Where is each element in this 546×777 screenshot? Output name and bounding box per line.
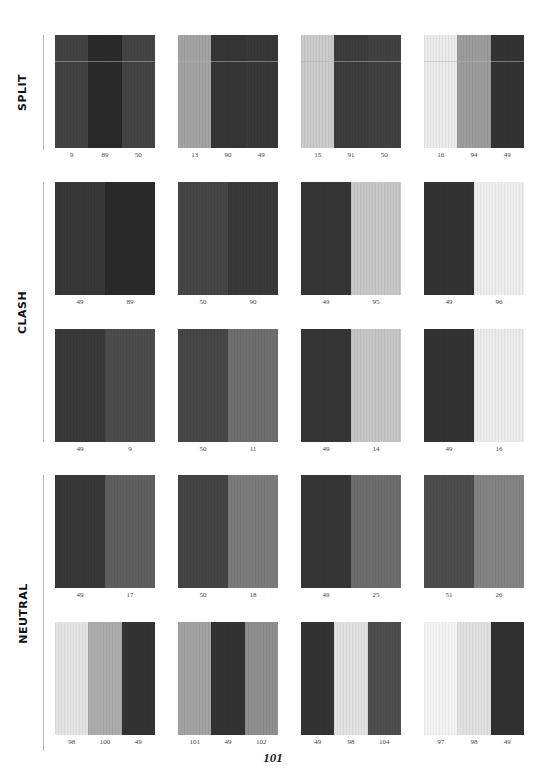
color-stripe — [301, 35, 334, 148]
color-stripe — [245, 622, 278, 735]
swatch-code-label: 98 — [334, 738, 367, 746]
color-swatch — [424, 622, 524, 735]
swatch-card: 499 — [55, 329, 155, 453]
color-swatch — [178, 475, 278, 588]
color-stripe — [178, 329, 228, 442]
color-swatch — [55, 329, 155, 442]
swatch-code-label: 49 — [491, 151, 524, 159]
swatch-code-label: 49 — [491, 738, 524, 746]
color-stripe — [301, 329, 351, 442]
swatch-codes: 4995 — [301, 298, 401, 306]
swatch-code-label: 95 — [351, 298, 401, 306]
swatch-codes: 10149102 — [178, 738, 278, 746]
swatch-codes: 169449 — [424, 151, 524, 159]
section-label-clash: CLASH — [8, 182, 38, 442]
section-label-split: SPLIT — [8, 35, 38, 150]
swatch-code-label: 9 — [105, 445, 155, 453]
color-stripe — [457, 622, 490, 735]
color-swatch — [424, 182, 524, 295]
swatch-code-label: 18 — [228, 591, 278, 599]
swatch-code-label: 98 — [457, 738, 490, 746]
swatch-codes: 5090 — [178, 298, 278, 306]
swatch-code-label: 16 — [424, 151, 457, 159]
swatch-code-label: 50 — [178, 445, 228, 453]
swatch-code-label: 94 — [457, 151, 490, 159]
swatch-card: 159150 — [301, 35, 401, 159]
swatch-card: 98950 — [55, 35, 155, 159]
color-stripe — [474, 475, 524, 588]
color-stripe — [211, 622, 244, 735]
swatch-code-label: 49 — [55, 591, 105, 599]
swatch-code-label: 17 — [105, 591, 155, 599]
color-stripe — [178, 35, 211, 148]
swatch-card: 4998104 — [301, 622, 401, 746]
swatch-code-label: 26 — [474, 591, 524, 599]
color-stripe — [368, 622, 401, 735]
color-stripe — [228, 182, 278, 295]
swatch-card: 5090 — [178, 182, 278, 306]
swatch-code-label: 102 — [245, 738, 278, 746]
swatch-code-label: 9 — [55, 151, 88, 159]
color-stripe — [474, 182, 524, 295]
swatch-codes: 159150 — [301, 151, 401, 159]
swatch-card: 10149102 — [178, 622, 278, 746]
swatch-code-label: 49 — [301, 445, 351, 453]
page-number: 101 — [0, 750, 546, 766]
color-stripe — [88, 35, 121, 148]
color-swatch — [178, 329, 278, 442]
swatch-card: 4989 — [55, 182, 155, 306]
swatch-code-label: 13 — [178, 151, 211, 159]
swatch-codes: 9810049 — [55, 738, 155, 746]
swatch-code-label: 89 — [88, 151, 121, 159]
swatch-codes: 4916 — [424, 445, 524, 453]
color-swatch — [178, 182, 278, 295]
swatch-code-label: 49 — [424, 445, 474, 453]
color-stripe — [351, 182, 401, 295]
swatch-card: 4917 — [55, 475, 155, 599]
swatch-codes: 5126 — [424, 591, 524, 599]
swatch-codes: 499 — [55, 445, 155, 453]
swatch-code-label: 97 — [424, 738, 457, 746]
swatch-codes: 4914 — [301, 445, 401, 453]
swatch-card: 5126 — [424, 475, 524, 599]
highlight-line — [55, 61, 155, 62]
color-stripe — [228, 329, 278, 442]
highlight-line — [178, 61, 278, 62]
color-stripe — [301, 475, 351, 588]
color-stripe — [55, 35, 88, 148]
color-swatch — [424, 35, 524, 148]
color-stripe — [55, 329, 105, 442]
swatch-codes: 5011 — [178, 445, 278, 453]
swatch-card: 4996 — [424, 182, 524, 306]
swatch-code-label: 101 — [178, 738, 211, 746]
swatch-code-label: 14 — [351, 445, 401, 453]
swatch-codes: 4996 — [424, 298, 524, 306]
swatch-codes: 4998104 — [301, 738, 401, 746]
color-stripe — [424, 622, 457, 735]
swatch-codes: 139049 — [178, 151, 278, 159]
color-swatch — [55, 622, 155, 735]
swatch-code-label: 15 — [301, 151, 334, 159]
swatch-card: 4914 — [301, 329, 401, 453]
color-stripe — [105, 182, 155, 295]
swatch-code-label: 49 — [301, 298, 351, 306]
swatch-code-label: 11 — [228, 445, 278, 453]
highlight-line — [301, 61, 401, 62]
swatch-card: 139049 — [178, 35, 278, 159]
swatch-code-label: 91 — [334, 151, 367, 159]
swatch-card: 4995 — [301, 182, 401, 306]
swatch-code-label: 49 — [245, 151, 278, 159]
swatch-code-label: 49 — [301, 591, 351, 599]
color-stripe — [334, 622, 367, 735]
swatch-card: 5018 — [178, 475, 278, 599]
swatch-code-label: 100 — [88, 738, 121, 746]
swatch-card: 9810049 — [55, 622, 155, 746]
color-swatch — [301, 182, 401, 295]
swatch-code-label: 50 — [178, 591, 228, 599]
color-stripe — [178, 182, 228, 295]
color-stripe — [424, 35, 457, 148]
swatch-code-label: 49 — [55, 298, 105, 306]
color-stripe — [334, 35, 367, 148]
color-swatch — [178, 35, 278, 148]
color-stripe — [474, 329, 524, 442]
